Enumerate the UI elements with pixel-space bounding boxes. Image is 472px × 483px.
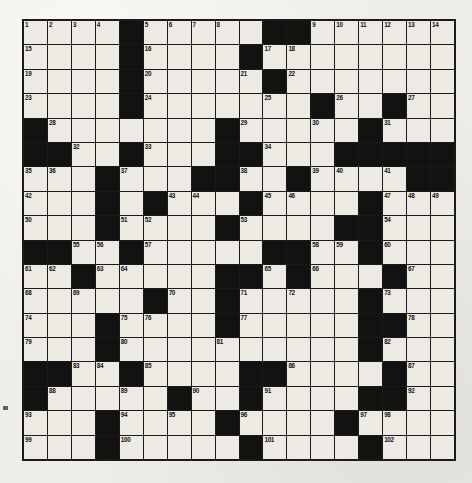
grid-cell[interactable]: 55 [72, 241, 95, 264]
grid-cell[interactable] [407, 70, 430, 93]
grid-cell[interactable] [72, 411, 95, 434]
grid-cell[interactable] [263, 314, 286, 337]
grid-cell[interactable]: 90 [192, 387, 215, 410]
grid-cell[interactable]: 63 [96, 265, 119, 288]
grid-cell[interactable]: 80 [120, 338, 143, 361]
grid-cell[interactable] [431, 436, 454, 459]
grid-cell[interactable] [240, 338, 263, 361]
grid-cell[interactable] [431, 45, 454, 68]
grid-cell[interactable] [407, 411, 430, 434]
grid-cell[interactable]: 34 [263, 143, 286, 166]
grid-cell[interactable]: 8 [216, 21, 239, 44]
grid-cell[interactable] [311, 362, 334, 385]
grid-cell[interactable] [192, 143, 215, 166]
grid-cell[interactable]: 96 [240, 411, 263, 434]
grid-cell[interactable] [144, 119, 167, 142]
grid-cell[interactable]: 64 [120, 265, 143, 288]
grid-cell[interactable] [216, 70, 239, 93]
grid-cell[interactable]: 91 [263, 387, 286, 410]
grid-cell[interactable]: 77 [240, 314, 263, 337]
grid-cell[interactable] [168, 338, 191, 361]
grid-cell[interactable]: 67 [407, 265, 430, 288]
grid-cell[interactable]: 100 [120, 436, 143, 459]
grid-cell[interactable]: 98 [383, 411, 406, 434]
grid-cell[interactable] [359, 362, 382, 385]
grid-cell[interactable] [311, 289, 334, 312]
grid-cell[interactable] [192, 45, 215, 68]
grid-cell[interactable] [263, 289, 286, 312]
grid-cell[interactable]: 49 [431, 192, 454, 215]
grid-cell[interactable] [192, 289, 215, 312]
grid-cell[interactable] [335, 436, 358, 459]
grid-cell[interactable]: 68 [24, 289, 47, 312]
grid-cell[interactable] [96, 45, 119, 68]
grid-cell[interactable] [311, 387, 334, 410]
grid-cell[interactable] [192, 216, 215, 239]
grid-cell[interactable] [144, 436, 167, 459]
grid-cell[interactable]: 51 [120, 216, 143, 239]
grid-cell[interactable] [72, 119, 95, 142]
grid-cell[interactable] [311, 216, 334, 239]
grid-cell[interactable] [216, 45, 239, 68]
grid-cell[interactable]: 89 [120, 387, 143, 410]
grid-cell[interactable]: 60 [383, 241, 406, 264]
grid-cell[interactable]: 74 [24, 314, 47, 337]
grid-cell[interactable] [240, 94, 263, 117]
grid-cell[interactable] [431, 362, 454, 385]
grid-cell[interactable] [407, 289, 430, 312]
grid-cell[interactable] [72, 436, 95, 459]
grid-cell[interactable] [72, 387, 95, 410]
grid-cell[interactable]: 101 [263, 436, 286, 459]
grid-cell[interactable] [72, 167, 95, 190]
grid-cell[interactable] [168, 94, 191, 117]
grid-cell[interactable]: 93 [24, 411, 47, 434]
grid-cell[interactable] [383, 70, 406, 93]
grid-cell[interactable] [287, 387, 310, 410]
grid-cell[interactable] [168, 265, 191, 288]
grid-cell[interactable]: 72 [287, 289, 310, 312]
grid-cell[interactable] [431, 265, 454, 288]
grid-cell[interactable] [240, 21, 263, 44]
grid-cell[interactable]: 84 [96, 362, 119, 385]
grid-cell[interactable]: 46 [287, 192, 310, 215]
grid-cell[interactable]: 82 [383, 338, 406, 361]
grid-cell[interactable]: 76 [144, 314, 167, 337]
grid-cell[interactable]: 81 [216, 338, 239, 361]
grid-cell[interactable] [263, 167, 286, 190]
grid-cell[interactable] [72, 338, 95, 361]
grid-cell[interactable] [311, 192, 334, 215]
grid-cell[interactable] [96, 70, 119, 93]
grid-cell[interactable]: 73 [383, 289, 406, 312]
grid-cell[interactable]: 88 [48, 387, 71, 410]
grid-cell[interactable] [311, 436, 334, 459]
grid-cell[interactable] [48, 192, 71, 215]
grid-cell[interactable] [216, 362, 239, 385]
grid-cell[interactable] [48, 70, 71, 93]
grid-cell[interactable]: 17 [263, 45, 286, 68]
grid-cell[interactable]: 83 [72, 362, 95, 385]
grid-cell[interactable]: 1 [24, 21, 47, 44]
grid-cell[interactable]: 21 [240, 70, 263, 93]
grid-cell[interactable]: 42 [24, 192, 47, 215]
grid-cell[interactable] [311, 45, 334, 68]
grid-cell[interactable] [383, 45, 406, 68]
grid-cell[interactable]: 94 [120, 411, 143, 434]
grid-cell[interactable] [431, 216, 454, 239]
grid-cell[interactable] [144, 338, 167, 361]
grid-cell[interactable]: 85 [144, 362, 167, 385]
grid-cell[interactable] [216, 241, 239, 264]
grid-cell[interactable]: 65 [263, 265, 286, 288]
grid-cell[interactable]: 16 [144, 45, 167, 68]
grid-cell[interactable] [96, 94, 119, 117]
grid-cell[interactable] [144, 411, 167, 434]
grid-cell[interactable] [311, 411, 334, 434]
grid-cell[interactable]: 43 [168, 192, 191, 215]
grid-cell[interactable] [407, 216, 430, 239]
grid-cell[interactable] [72, 192, 95, 215]
grid-cell[interactable] [359, 94, 382, 117]
grid-cell[interactable] [407, 338, 430, 361]
grid-cell[interactable] [192, 70, 215, 93]
grid-cell[interactable]: 12 [383, 21, 406, 44]
grid-cell[interactable] [216, 387, 239, 410]
grid-cell[interactable] [431, 411, 454, 434]
